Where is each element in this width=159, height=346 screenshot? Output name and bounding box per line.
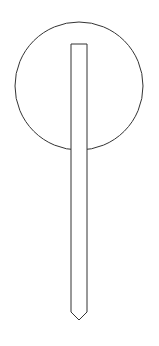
pin-stem-shape: [71, 44, 87, 320]
pin-drawing: [0, 0, 159, 346]
diagram-canvas: [0, 0, 159, 346]
